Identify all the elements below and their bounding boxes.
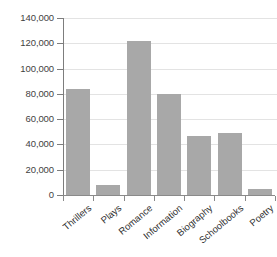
bar: [127, 41, 151, 195]
x-axis-tick: [184, 196, 185, 201]
x-axis-tick: [245, 196, 246, 201]
bar: [96, 185, 120, 195]
x-axis-tick: [63, 196, 64, 201]
x-axis-tick: [154, 196, 155, 201]
x-axis-tick: [275, 196, 276, 201]
bar: [157, 94, 181, 195]
bar: [187, 136, 211, 195]
bar: [66, 89, 90, 195]
bar-chart: 020,00040,00060,00080,000100,000120,0001…: [0, 0, 277, 257]
bar: [218, 133, 242, 195]
x-axis-line: [63, 195, 275, 196]
x-axis-tick: [93, 196, 94, 201]
x-axis-tick: [214, 196, 215, 201]
x-axis-tick: [124, 196, 125, 201]
